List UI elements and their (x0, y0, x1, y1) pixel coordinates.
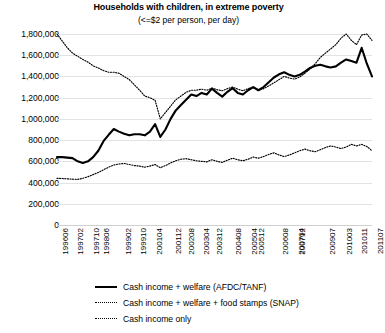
legend-item[interactable]: Cash income + welfare + food stamps (SNA… (95, 295, 377, 311)
series-lines (57, 34, 372, 225)
y-axis-tick-label: 400,000 (28, 178, 59, 188)
legend-line-icon (95, 282, 119, 292)
x-axis-tick-label: 200104 (155, 228, 164, 255)
y-axis-tick-label: 1,400,000 (21, 71, 59, 81)
x-axis-tick-label: 199806 (102, 228, 111, 255)
y-axis-tick-label: 1,200,000 (21, 93, 59, 103)
x-axis-tick-label: 200408 (234, 228, 243, 255)
series-line (57, 48, 372, 163)
x-axis-tick-label: 201107 (376, 228, 385, 254)
chart-title: Households with children, in extreme pov… (0, 2, 377, 12)
legend-item[interactable]: Cash income + welfare (AFDC/TANF) (95, 279, 377, 295)
x-axis-tick-label: 201003 (345, 228, 354, 255)
y-axis-tick-label: 600,000 (28, 156, 59, 166)
x-axis-tick-label: 199702 (76, 228, 85, 255)
legend-item-label: Cash income + welfare (AFDC/TANF) (123, 282, 266, 292)
series-line (57, 34, 372, 119)
y-axis-tick-label: 1,600,000 (21, 50, 59, 60)
plot-area (57, 34, 372, 225)
legend-item-label: Cash income only (123, 314, 191, 324)
legend-item-label: Cash income + welfare + food stamps (SNA… (123, 298, 299, 308)
legend-item[interactable]: Cash income only (95, 311, 377, 327)
x-axis-labels: 1996061997021997101998061999021999102001… (57, 228, 372, 280)
legend-line-icon (95, 298, 119, 308)
chart-legend: Cash income + welfare (AFDC/TANF)Cash in… (95, 279, 377, 327)
x-axis-tick-label: 200208 (187, 228, 196, 255)
x-axis-tick-label: 200312 (215, 228, 224, 255)
x-axis-tick-label: 200112 (174, 228, 183, 254)
y-axis-tick-label: 200,000 (28, 199, 59, 209)
x-axis-tick-label: 199710 (92, 228, 101, 255)
x-axis-tick-label: 199910 (139, 228, 148, 255)
x-axis-tick-label: 200712 (298, 228, 307, 255)
x-axis-tick-label: 199902 (124, 228, 133, 255)
legend-line-icon (95, 314, 119, 324)
x-axis-tick-label: 200512 (257, 228, 266, 255)
x-axis-tick-label: 200907 (328, 228, 337, 255)
y-axis-tick-label: 800,000 (28, 135, 59, 145)
gridline (57, 225, 372, 226)
chart-subtitle: (<=$2 per person, per day) (0, 15, 377, 25)
x-axis-tick-label: 199606 (61, 228, 70, 255)
x-axis-tick-label: 200304 (202, 228, 211, 255)
x-axis-tick-label: 200608 (281, 228, 290, 255)
y-axis-tick-label: 1,800,000 (21, 29, 59, 39)
series-line (57, 144, 372, 179)
y-axis-tick-label: 1,000,000 (21, 114, 59, 124)
x-axis-tick-label: 201011 (360, 228, 369, 254)
